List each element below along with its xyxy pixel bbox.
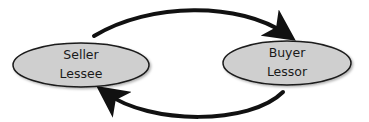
node-label-line1: Buyer (269, 45, 307, 60)
node-label-line1: Seller (63, 47, 99, 62)
node-seller-lessee: Seller Lessee (13, 43, 149, 87)
node-label-line2: Lessor (267, 64, 308, 79)
node-label-line2: Lessee (60, 66, 103, 81)
node-buyer-lessor: Buyer Lessor (223, 41, 351, 85)
diagram-canvas: Seller Lessee Buyer Lessor (0, 0, 369, 122)
arrow-buyer-to-seller (106, 92, 283, 117)
arrow-seller-to-buyer (94, 10, 286, 36)
